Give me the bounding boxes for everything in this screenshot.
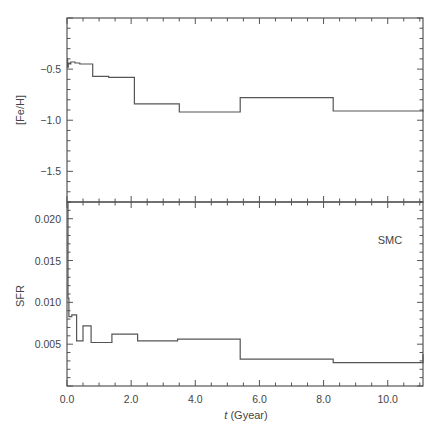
tick-label: 6.0: [252, 393, 267, 405]
feh-axis-title: [Fe/H]: [14, 95, 26, 125]
tick-label: 10.0: [378, 393, 399, 405]
tick-label: 2.0: [124, 393, 139, 405]
sfr-series-line: [67, 202, 423, 363]
plot-frames: [67, 18, 423, 386]
tick-label: 8.0: [316, 393, 331, 405]
tick-label: 0.020: [35, 213, 61, 225]
tick-label: 4.0: [188, 393, 203, 405]
x-axis-title: t (Gyear): [224, 409, 267, 421]
tick-label: 0.010: [35, 296, 61, 308]
x-axis-title-unit: (Gyear): [227, 409, 267, 421]
sfr-axis-title: SFR: [14, 285, 26, 307]
tick-label: −1.0: [40, 114, 61, 126]
tick-label: −1.5: [40, 165, 61, 177]
tick-label: −0.5: [40, 63, 61, 75]
feh-series-line: [67, 59, 423, 112]
tick-label: 0.005: [35, 338, 61, 350]
chart-figure: −0.5−1.0−1.50.0050.0100.0150.0200.02.04.…: [0, 0, 442, 440]
tick-label: 0.015: [35, 255, 61, 267]
smc-annotation: SMC: [378, 234, 403, 246]
tick-labels: −0.5−1.0−1.50.0050.0100.0150.0200.02.04.…: [35, 63, 398, 405]
tick-label: 0.0: [60, 393, 75, 405]
